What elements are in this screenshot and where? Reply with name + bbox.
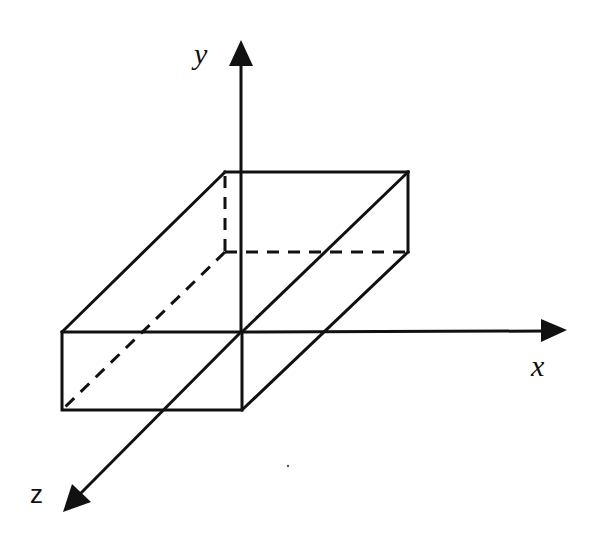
- y-axis: [229, 40, 253, 332]
- z-axis-label: z: [30, 479, 43, 509]
- arrow-up-icon: [229, 40, 253, 66]
- x-axis: [241, 319, 567, 342]
- box-visible-edges: [62, 172, 408, 410]
- box-hidden-edges: [64, 176, 408, 408]
- z-axis: [63, 332, 241, 512]
- y-axis-label: y: [191, 37, 208, 70]
- arrow-right-icon: [541, 319, 567, 342]
- stray-dot: [287, 465, 289, 467]
- coordinate-box-diagram: y x z: [0, 0, 598, 537]
- x-axis-label: x: [530, 349, 545, 382]
